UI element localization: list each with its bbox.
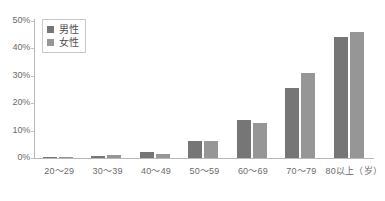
bar-group: [277, 21, 325, 158]
bar-male: [285, 88, 299, 158]
bar-male: [140, 152, 154, 158]
bar-male: [237, 120, 251, 158]
bar-group: [180, 21, 228, 158]
y-axis-tick-10: 10%: [0, 126, 30, 135]
x-axis-line: [34, 158, 374, 159]
legend-swatch-male-icon: [47, 26, 54, 33]
y-axis-tick-mark-30: [31, 76, 34, 77]
bar-male: [334, 37, 348, 158]
bar-female: [156, 154, 170, 158]
bar-female: [59, 157, 73, 158]
x-axis-label-3: 50～59: [180, 166, 228, 177]
legend: 男性 女性: [42, 19, 86, 53]
y-axis-tick-mark-20: [31, 103, 34, 104]
bar-group: [83, 21, 131, 158]
y-axis-tick-0: 0%: [0, 153, 30, 162]
x-axis-label-2: 40～49: [132, 166, 180, 177]
bar-female: [107, 155, 121, 158]
bar-male: [43, 157, 57, 158]
bar-female: [301, 73, 315, 158]
y-axis-tick-20: 20%: [0, 98, 30, 107]
y-axis-tick-40: 40%: [0, 43, 30, 52]
legend-item-female: 女性: [47, 36, 79, 49]
bar-female: [350, 32, 364, 158]
bar-female: [253, 123, 267, 158]
x-axis-label-5: 70～79: [277, 166, 325, 177]
y-axis-tick-mark-50: [31, 21, 34, 22]
bar-female: [204, 141, 218, 158]
legend-item-male: 男性: [47, 23, 79, 36]
bar-group: [229, 21, 277, 158]
x-axis-label-4: 60～69: [229, 166, 277, 177]
x-axis-label-0: 20～29: [35, 166, 83, 177]
bar-group: [326, 21, 374, 158]
y-axis-tick-mark-40: [31, 48, 34, 49]
x-axis-label-1: 30～39: [83, 166, 131, 177]
bar-chart: 0%10%20%30%40%50% 20～2930～3940～4950～5960…: [0, 0, 385, 201]
x-axis-label-6: 80以上（岁）: [326, 166, 374, 177]
y-axis-tick-50: 50%: [0, 16, 30, 25]
legend-swatch-female-icon: [47, 39, 54, 46]
bar-male: [91, 156, 105, 158]
bar-male: [188, 141, 202, 158]
legend-label-male: 男性: [59, 24, 79, 35]
y-axis-tick-30: 30%: [0, 71, 30, 80]
bar-group: [132, 21, 180, 158]
legend-label-female: 女性: [59, 37, 79, 48]
y-axis-tick-mark-10: [31, 131, 34, 132]
